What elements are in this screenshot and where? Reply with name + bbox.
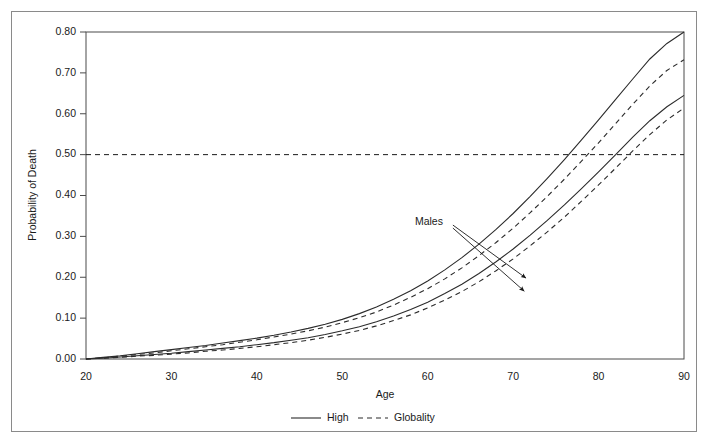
x-tick-label: 70 [507, 370, 519, 382]
x-tick-label: 40 [251, 370, 263, 382]
y-tick-label: 0.10 [56, 311, 77, 323]
plot-area-border [86, 32, 684, 359]
y-axis-title: Probability of Death [26, 149, 38, 241]
y-tick-label: 0.20 [56, 270, 77, 282]
chart-legend: High Globality [291, 411, 436, 423]
x-axis-title: Age [376, 388, 395, 400]
data-series-group [86, 32, 684, 359]
x-tick-label: 20 [80, 370, 92, 382]
males-arrow-2 [453, 228, 524, 291]
x-axis-ticks: 2030405060708090 [80, 370, 690, 382]
series-males-high [86, 32, 684, 359]
x-tick-label: 90 [678, 370, 690, 382]
series-females-globality [86, 108, 684, 359]
y-axis-ticks: 0.000.100.200.300.400.500.600.700.80 [56, 25, 86, 364]
males-annotation-label: Males [415, 215, 443, 227]
series-females-high [86, 95, 684, 359]
x-tick-label: 60 [422, 370, 434, 382]
x-tick-label: 50 [336, 370, 348, 382]
legend-high-label: High [327, 411, 349, 423]
probability-of-death-chart: 0.000.100.200.300.400.500.600.700.80 203… [12, 12, 696, 431]
y-tick-label: 0.80 [56, 25, 77, 37]
y-tick-label: 0.30 [56, 229, 77, 241]
x-tick-label: 30 [166, 370, 178, 382]
y-tick-label: 0.70 [56, 66, 77, 78]
y-tick-label: 0.60 [56, 107, 77, 119]
y-tick-label: 0.40 [56, 188, 77, 200]
y-tick-label: 0.50 [56, 147, 77, 159]
figure-frame: 0.000.100.200.300.400.500.600.700.80 203… [11, 11, 697, 432]
x-tick-label: 80 [593, 370, 605, 382]
legend-globality-label: Globality [394, 411, 436, 423]
annotations-group: Males [415, 215, 526, 291]
y-tick-label: 0.00 [56, 352, 77, 364]
males-arrow-1 [453, 225, 526, 278]
series-males-globality [86, 60, 684, 359]
